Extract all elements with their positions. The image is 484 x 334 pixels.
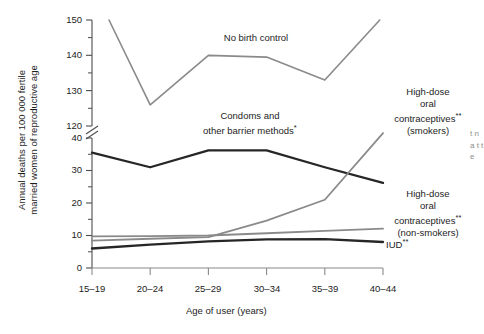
series-label-hdoc-non-line2: oral	[420, 200, 436, 211]
series-label-no-birth-control-text: No birth control	[224, 32, 288, 43]
y-axis-title: Annual deaths per 100 000 fertile marrie…	[16, 16, 39, 264]
series-label-no-birth-control: No birth control	[198, 32, 314, 44]
series-label-hdoc-non-footnote-mark: **	[455, 213, 461, 222]
series-line-condoms-and-other-barrier-methods	[92, 150, 383, 183]
y-tick-label-0: 0	[56, 262, 82, 273]
x-tick-label-30-34: 30–34	[244, 283, 290, 294]
series-label-iud: IUD**	[386, 236, 476, 251]
series-label-hdoc-smokers-line1: High-dose	[406, 86, 449, 97]
y-minorticks-upper	[88, 38, 92, 109]
x-axis-title: Age of user (years)	[186, 305, 267, 316]
x-tick-label-25-29: 25–29	[185, 283, 231, 294]
y-tick-label-20: 20	[56, 197, 82, 208]
series-label-condoms-line1: Condoms and	[220, 110, 279, 121]
cropped-body-text-column: t n a t t e	[470, 128, 484, 246]
y-tick-label-30: 30	[56, 164, 82, 175]
series-label-condoms-line2: other barrier methods	[203, 125, 294, 136]
y-tick-label-130: 130	[56, 85, 82, 96]
series-label-hdoc-smokers: High-dose oral contraceptives** (smokers…	[376, 86, 480, 137]
y-tick-label-150: 150	[56, 14, 82, 25]
series-label-condoms-footnote-mark: *	[294, 123, 297, 132]
axis-break-icon	[86, 126, 98, 139]
x-tick-label-35-39: 35–39	[302, 283, 348, 294]
series-label-hdoc-smokers-line3: contraceptives	[394, 113, 455, 124]
series-label-hdoc-non-smokers: High-dose oral contraceptives** (non-smo…	[376, 188, 480, 239]
y-axis-title-line2: married women of reproductive age	[28, 65, 39, 214]
x-tick-label-40-44: 40–44	[360, 283, 406, 294]
x-tick-label-15-19: 15–19	[69, 283, 115, 294]
x-tick-label-20-24: 20–24	[127, 283, 173, 294]
y-tick-label-40: 40	[56, 132, 82, 143]
y-tick-label-120: 120	[56, 120, 82, 131]
series-label-hdoc-non-line3: contraceptives	[394, 215, 455, 226]
series-label-iud-footnote-mark: **	[402, 237, 408, 246]
y-tick-label-10: 10	[56, 229, 82, 240]
series-line-iud	[92, 239, 383, 248]
x-ticks	[92, 268, 383, 275]
y-axis-title-line1: Annual deaths per 100 000 fertile	[16, 70, 27, 210]
series-label-hdoc-non-line1: High-dose	[406, 188, 449, 199]
series-line-high-dose-oral-contraceptives-non-smokers	[92, 229, 383, 237]
series-label-hdoc-smokers-line4: (smokers)	[407, 125, 449, 136]
series-label-hdoc-smokers-footnote-mark: **	[455, 111, 461, 120]
y-tick-label-140: 140	[56, 49, 82, 60]
series-label-hdoc-smokers-line2: oral	[420, 98, 436, 109]
series-label-condoms: Condoms and other barrier methods*	[176, 110, 324, 137]
series-label-iud-text: IUD	[386, 239, 402, 250]
